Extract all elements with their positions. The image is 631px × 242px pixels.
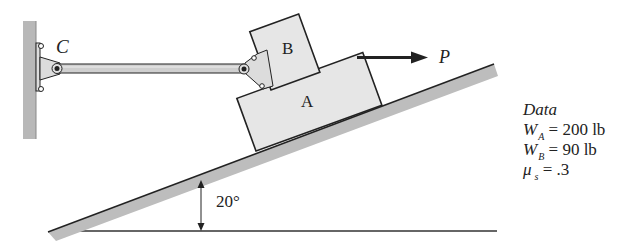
data-row-wa: WA = 200 lb <box>523 120 605 140</box>
value: .3 <box>557 160 570 179</box>
bolt-icon <box>39 87 44 92</box>
bolt-icon <box>260 84 265 89</box>
data-panel: Data WA = 200 lb WB = 90 lb μs = .3 <box>523 100 605 180</box>
data-title: Data <box>523 100 605 120</box>
bolt-icon <box>252 56 257 61</box>
symbol: W <box>523 120 537 139</box>
pin-b-center <box>242 67 247 72</box>
data-row-wb: WB = 90 lb <box>523 140 605 160</box>
wall-bracket-plate <box>36 43 40 91</box>
force-p-arrowhead <box>411 52 428 64</box>
subscript: s <box>535 171 539 182</box>
data-row-mus: μs = .3 <box>523 160 605 180</box>
rod <box>58 64 244 73</box>
angle-arrowhead-bottom <box>198 223 205 231</box>
pin-c-center <box>55 66 60 71</box>
equals: = <box>543 160 553 179</box>
symbol: μ <box>523 160 532 179</box>
bolt-icon <box>39 44 44 49</box>
wall <box>23 21 36 139</box>
value: 200 lb <box>562 120 605 139</box>
equals: = <box>549 120 559 139</box>
angle-label: 20° <box>216 192 240 212</box>
block-b-bracket <box>239 50 273 89</box>
label-b: B <box>282 39 293 59</box>
label-p: P <box>439 47 450 68</box>
label-a: A <box>301 92 313 112</box>
label-c: C <box>56 36 69 58</box>
equals: = <box>549 140 559 159</box>
symbol: W <box>523 140 537 159</box>
value: 90 lb <box>562 140 596 159</box>
